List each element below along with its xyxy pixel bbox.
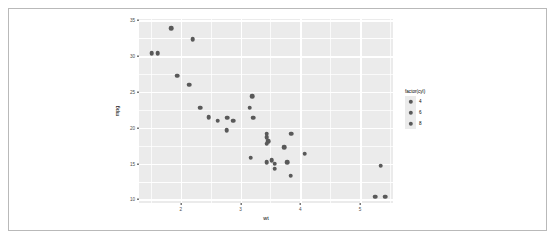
gridline-minor-horizontal xyxy=(139,182,393,183)
data-point xyxy=(248,156,253,161)
legend-key-swatch xyxy=(405,107,416,118)
y-axis-tick-label: 20 xyxy=(117,125,135,130)
y-axis-tick-label: 15 xyxy=(117,161,135,166)
data-point xyxy=(247,105,252,110)
gridline-major-horizontal xyxy=(139,128,393,129)
legend-key-swatch xyxy=(405,118,416,129)
legend-item-label: 8 xyxy=(419,121,422,126)
gridline-minor-vertical xyxy=(330,19,331,203)
gridline-major-vertical xyxy=(300,19,301,203)
data-point xyxy=(175,73,180,78)
y-axis-tick-label: 30 xyxy=(117,54,135,59)
x-axis-tick-mark xyxy=(300,203,301,205)
data-point xyxy=(251,116,256,121)
data-point xyxy=(383,194,388,199)
data-point xyxy=(216,118,221,123)
y-axis-tick-mark xyxy=(137,199,139,200)
data-point xyxy=(187,83,192,88)
data-point xyxy=(156,51,161,56)
data-point xyxy=(289,173,294,178)
gridline-major-vertical xyxy=(181,19,182,203)
legend-key-dot-icon xyxy=(408,99,412,103)
data-point xyxy=(206,115,211,120)
y-axis-tick-mark xyxy=(137,163,139,164)
data-point xyxy=(231,118,236,123)
screenshot-frame: 2345353025201510 mpg wt factor(cyl) 468 xyxy=(8,8,547,231)
data-point xyxy=(190,37,195,42)
gridline-major-horizontal xyxy=(139,56,393,57)
legend-item[interactable]: 4 xyxy=(405,96,445,107)
data-point xyxy=(250,94,255,99)
data-point xyxy=(198,105,203,110)
plot-panel xyxy=(139,19,393,203)
legend-item-label: 6 xyxy=(419,110,422,115)
x-axis-tick-mark xyxy=(360,203,361,205)
legend-item[interactable]: 8 xyxy=(405,118,445,129)
x-axis-tick-mark xyxy=(180,203,181,205)
y-axis-title: mpg xyxy=(114,106,120,117)
data-point xyxy=(169,26,174,31)
gridline-major-horizontal xyxy=(139,20,393,21)
gridline-minor-vertical xyxy=(390,19,391,203)
x-axis-tick-label: 4 xyxy=(299,207,302,212)
y-axis-tick-mark xyxy=(137,92,139,93)
gridline-major-vertical xyxy=(360,19,361,203)
data-point xyxy=(282,145,287,150)
gridline-minor-vertical xyxy=(211,19,212,203)
data-point xyxy=(265,131,270,136)
legend-item[interactable]: 6 xyxy=(405,107,445,118)
data-point xyxy=(265,141,270,146)
legend: factor(cyl) 468 xyxy=(405,89,445,129)
data-point xyxy=(149,51,154,56)
data-point xyxy=(225,128,230,133)
data-point xyxy=(378,163,383,168)
y-axis-tick-mark xyxy=(137,20,139,21)
legend-key-dot-icon xyxy=(408,110,412,114)
data-point xyxy=(272,166,277,171)
gridline-minor-horizontal xyxy=(139,110,393,111)
data-point xyxy=(373,194,378,199)
y-axis-tick-label: 25 xyxy=(117,90,135,95)
gridline-major-horizontal xyxy=(139,199,393,200)
data-point xyxy=(225,116,230,121)
y-axis-tick-label: 10 xyxy=(117,197,135,202)
legend-title: factor(cyl) xyxy=(405,89,445,94)
scatter-plot-figure: 2345353025201510 mpg wt factor(cyl) 468 xyxy=(9,9,546,230)
y-axis-tick-mark xyxy=(137,56,139,57)
x-axis-tick-label: 2 xyxy=(180,207,183,212)
x-axis-tick-label: 3 xyxy=(239,207,242,212)
gridline-major-vertical xyxy=(241,19,242,203)
data-point xyxy=(272,161,277,166)
gridline-minor-vertical xyxy=(270,19,271,203)
x-axis-title: wt xyxy=(139,215,393,221)
data-point xyxy=(302,151,307,156)
legend-key-dot-icon xyxy=(408,121,412,125)
legend-items: 468 xyxy=(405,96,445,129)
data-point xyxy=(264,160,269,165)
data-point xyxy=(285,160,290,165)
x-axis-tick-mark xyxy=(240,203,241,205)
gridline-major-horizontal xyxy=(139,92,393,93)
y-axis-tick-mark xyxy=(137,127,139,128)
gridline-minor-vertical xyxy=(151,19,152,203)
x-axis-tick-label: 5 xyxy=(359,207,362,212)
gridline-minor-horizontal xyxy=(139,38,393,39)
data-point xyxy=(289,131,294,136)
y-axis-tick-label: 35 xyxy=(117,18,135,23)
legend-key-swatch xyxy=(405,96,416,107)
legend-item-label: 4 xyxy=(419,99,422,104)
